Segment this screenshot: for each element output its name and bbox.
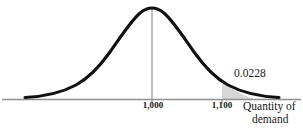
x-axis-title-line1: Quantity of: [243, 100, 296, 112]
cutoff-tick-label: 1,100: [202, 101, 242, 110]
tail-area-label: 0.0228: [234, 68, 266, 80]
x-axis-title-line2: demand: [243, 113, 296, 126]
mean-tick-label-text: 1,000: [133, 101, 173, 110]
x-axis-title: Quantity of demand: [243, 100, 296, 126]
normal-distribution-figure: 1,000 1,100 0.0228 Quantity of demand: [0, 0, 303, 137]
